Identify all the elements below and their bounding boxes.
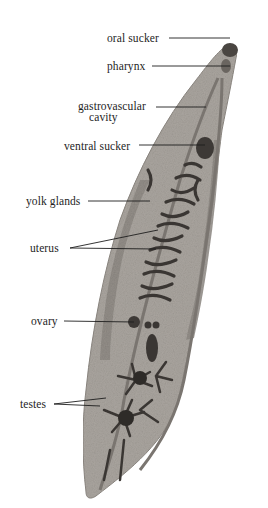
label-oral-sucker: oral sucker	[107, 32, 159, 44]
label-yolk-glands: yolk glands	[26, 195, 80, 207]
oral-sucker-shape	[222, 43, 238, 57]
testis-lower	[118, 410, 134, 426]
fluke-illustration	[0, 0, 268, 508]
fluke-diagram: oral sucker pharynx gastrovascular cavit…	[0, 0, 268, 508]
label-ovary: ovary	[31, 315, 58, 327]
label-gastrovascular-cavity-line2: cavity	[89, 111, 118, 123]
label-uterus: uterus	[30, 242, 59, 254]
label-testes: testes	[20, 398, 46, 410]
ventral-sucker-shape	[196, 137, 214, 159]
label-pharynx: pharynx	[107, 60, 145, 72]
testis-upper	[133, 371, 147, 385]
label-ventral-sucker: ventral sucker	[64, 140, 130, 152]
